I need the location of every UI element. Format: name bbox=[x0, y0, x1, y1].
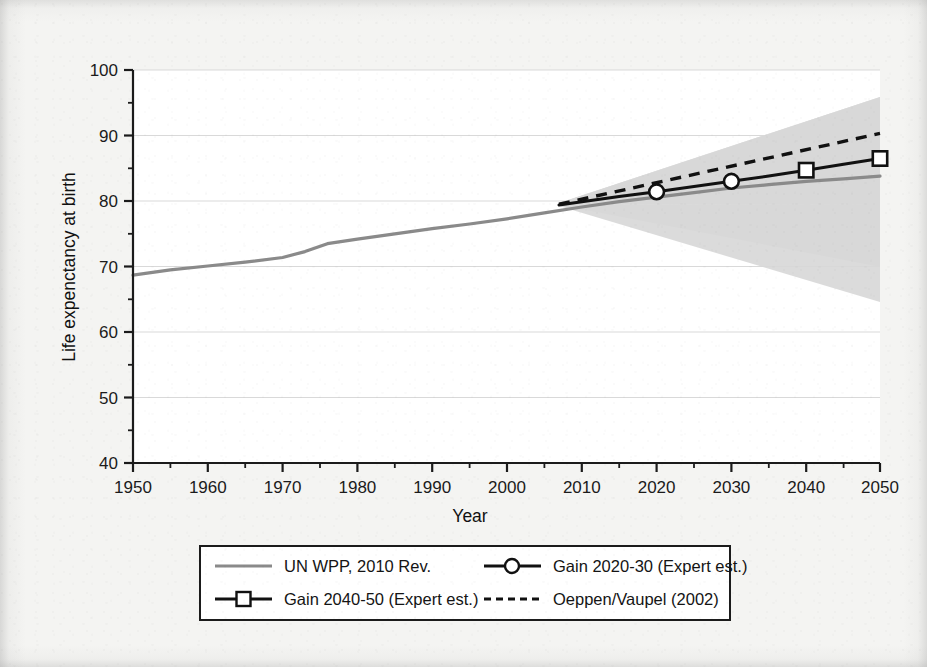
legend-marker-square-icon bbox=[237, 592, 251, 606]
x-tick-label: 2000 bbox=[488, 478, 526, 497]
x-tick-labels: 1950 1960 1970 1980 1990 2000 2010 2020 … bbox=[114, 478, 899, 497]
y-tick-label: 100 bbox=[90, 61, 118, 80]
x-tick-label: 2020 bbox=[638, 478, 676, 497]
legend-label-gain-2020-30: Gain 2020-30 (Expert est.) bbox=[553, 557, 747, 575]
x-tick-label: 1990 bbox=[413, 478, 451, 497]
y-tick-label: 40 bbox=[99, 454, 118, 473]
y-major-ticks bbox=[124, 70, 133, 463]
x-tick-label: 1950 bbox=[114, 478, 152, 497]
x-tick-label: 1970 bbox=[264, 478, 302, 497]
x-tick-label: 1960 bbox=[189, 478, 227, 497]
y-tick-label: 90 bbox=[99, 127, 118, 146]
x-axis-title: Year bbox=[452, 506, 488, 526]
y-axis-title: Life expenctancy at birth bbox=[59, 172, 79, 362]
y-tick-label: 50 bbox=[99, 389, 118, 408]
x-tick-label: 2030 bbox=[712, 478, 750, 497]
x-tick-label: 2010 bbox=[563, 478, 601, 497]
chart-page: 100 90 80 70 60 50 40 1950 1960 1970 198… bbox=[0, 0, 927, 667]
legend: UN WPP, 2010 Rev. Gain 2020-30 (Expert e… bbox=[200, 546, 747, 620]
legend-marker-circle-icon bbox=[505, 559, 519, 573]
legend-label-gain-2040-50: Gain 2040-50 (Expert est.) bbox=[284, 590, 478, 608]
y-tick-label: 60 bbox=[99, 323, 118, 342]
y-tick-label: 80 bbox=[99, 192, 118, 211]
legend-label-un-wpp: UN WPP, 2010 Rev. bbox=[284, 557, 431, 575]
x-tick-label: 2040 bbox=[787, 478, 825, 497]
x-tick-label: 1980 bbox=[338, 478, 376, 497]
y-tick-labels: 100 90 80 70 60 50 40 bbox=[90, 61, 118, 473]
legend-label-oeppen-vaupel: Oeppen/Vaupel (2002) bbox=[553, 590, 719, 608]
x-tick-label: 2050 bbox=[861, 478, 899, 497]
y-tick-label: 70 bbox=[99, 258, 118, 277]
life-expectancy-chart: 100 90 80 70 60 50 40 1950 1960 1970 198… bbox=[0, 0, 927, 667]
